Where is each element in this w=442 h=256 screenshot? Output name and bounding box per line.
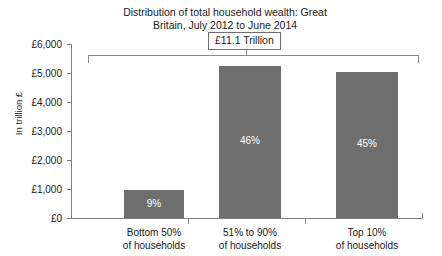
total-bracket-left-end xyxy=(88,55,89,63)
y-tick-label: £6,000 xyxy=(14,40,62,50)
total-bracket-right-end xyxy=(418,55,419,63)
bar-top-10: 45% xyxy=(336,72,398,218)
x-category-label: Top 10% of households xyxy=(317,226,417,252)
y-tick-mark xyxy=(67,44,72,45)
bar-bottom-50: 9% xyxy=(124,190,184,218)
x-tick-mark xyxy=(188,219,189,224)
x-axis-end-tick xyxy=(422,213,423,219)
y-tick-mark xyxy=(67,73,72,74)
total-bracket-line xyxy=(88,55,419,56)
y-tick-mark xyxy=(67,218,72,219)
chart-title: Distribution of total household wealth: … xyxy=(95,6,355,32)
y-tick-mark xyxy=(67,102,72,103)
bar-value-label: 46% xyxy=(219,135,281,146)
y-tick-mark xyxy=(67,131,72,132)
y-tick-label: £3,000 xyxy=(14,127,62,137)
y-tick-mark xyxy=(67,189,72,190)
y-tick-label: £0 xyxy=(14,214,62,224)
x-axis-line xyxy=(71,218,423,219)
x-category-label: Bottom 50% of households xyxy=(104,226,204,252)
y-tick-label: £1,000 xyxy=(14,185,62,195)
bar-value-label: 9% xyxy=(124,198,184,209)
y-axis-tick-labels: £6,000 £5,000 £4,000 £3,000 £2,000 £1,00… xyxy=(12,0,62,256)
y-tick-label: £4,000 xyxy=(14,98,62,108)
y-tick-label: £2,000 xyxy=(14,156,62,166)
bar-value-label: 45% xyxy=(336,138,398,149)
total-wealth-callout: £11.1 Trillion xyxy=(208,32,281,50)
x-category-label: 51% to 90% of households xyxy=(200,226,300,252)
bar-chart: Distribution of total household wealth: … xyxy=(0,0,442,256)
y-tick-label: £5,000 xyxy=(14,69,62,79)
bar-51-to-90: 46% xyxy=(219,66,281,218)
x-tick-mark xyxy=(305,219,306,224)
y-tick-mark xyxy=(67,160,72,161)
